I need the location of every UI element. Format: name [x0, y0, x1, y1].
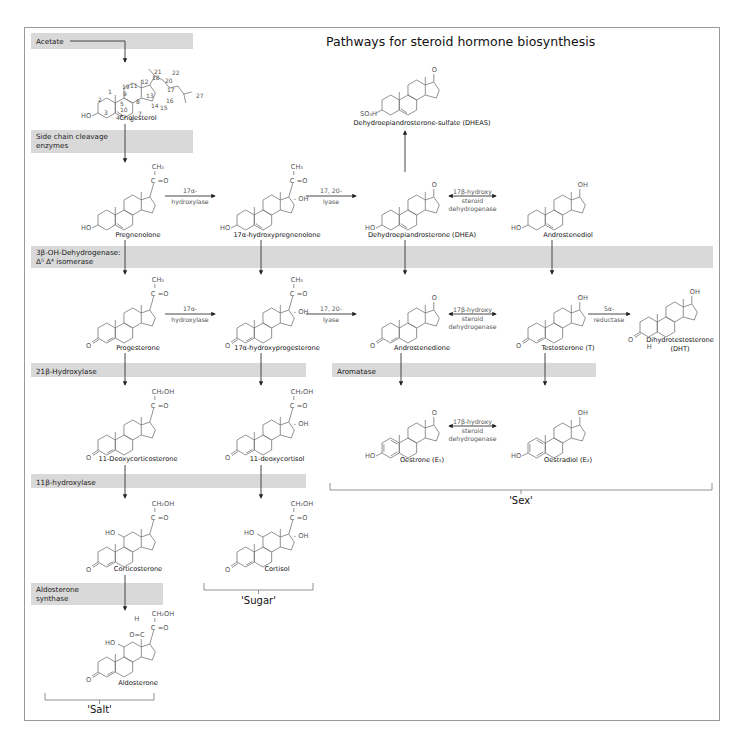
substituent-label: HO — [220, 224, 230, 232]
substituent-label: HO — [105, 529, 115, 537]
diagram-title: Pathways for steroid hormone biosynthesi… — [326, 34, 595, 49]
substituent-label: =O — [158, 177, 169, 185]
band-label: Side chain cleavage — [36, 132, 109, 141]
substituent-label: O — [86, 676, 91, 684]
substituent-label: C — [151, 177, 156, 185]
carbon-number: 22 — [172, 69, 180, 76]
band-aromatase: Aromatase — [332, 363, 596, 377]
band-11b-hydroxylase: 11β-hydroxylase — [31, 474, 306, 488]
substituent-label: O — [225, 454, 230, 462]
carbon-number: 18 — [152, 74, 160, 81]
compound-name: Dihydrotestosterone — [646, 336, 713, 344]
band-label: Acetate — [36, 37, 64, 46]
substituent-label: H — [134, 615, 139, 623]
compound-name: Androstenediol — [543, 231, 593, 239]
compound-name: Progesterone — [116, 344, 160, 352]
enzyme-label: steroid — [462, 197, 483, 204]
compound-dheas: SO₃HODehydroepiandrosterone-sulfate (DHE… — [354, 66, 491, 127]
band-label: enzymes — [36, 141, 68, 150]
substituent-label: SO₃H — [360, 110, 377, 118]
enzyme-label: 17α- — [183, 187, 197, 194]
carbon-number: 16 — [166, 97, 174, 104]
compound-name: Oestrone (E₁) — [400, 456, 444, 464]
substituent-label: - OH — [294, 532, 309, 540]
substituent-label: CH₂OH — [291, 388, 313, 396]
compound-name-line2: (DHT) — [670, 345, 689, 353]
substituent-label: CH₂OH — [152, 500, 174, 508]
carbon-number: 8 — [136, 98, 140, 105]
band-3b-oh-dehydrogenase: 3β-OH-Dehydrogenase:Δ⁵ Δ⁴ isomerase — [31, 246, 713, 268]
substituent-label: =O — [297, 402, 308, 410]
band-21b-hydroxylase: 21β-Hydroxylase — [31, 363, 306, 377]
substituent-label: OH — [578, 409, 588, 417]
substituent-label: HO — [511, 224, 521, 232]
compound-deoxycorticosterone: OC=OCH₂OH11-Deoxycorticosterone — [86, 388, 177, 463]
substituent-label: H — [647, 343, 652, 351]
carbon-number: 13 — [146, 92, 154, 99]
carbon-number: 27 — [196, 92, 204, 99]
substituent-label: OH — [690, 288, 700, 296]
enzyme-5a-reductase: 5α-reductase — [588, 305, 630, 323]
substituent-label: HO — [511, 452, 521, 460]
steroid-pathway-diagram: AcetateSide chain cleavageenzymes3β-OH-D… — [0, 0, 740, 749]
bracket-sex: 'Sex' — [330, 483, 712, 506]
substituent-label: O — [628, 336, 633, 344]
compound-name: Androstenedione — [394, 344, 450, 352]
enzyme-label: hydroxylase — [171, 316, 209, 324]
band-label: 21β-Hydroxylase — [36, 367, 97, 376]
compound-name: Dehydroepiandrosterone (DHEA) — [368, 231, 476, 239]
enzyme-label: 17β-hydroxy — [453, 306, 492, 314]
bracket-label: 'Salt' — [87, 704, 112, 715]
compound-name: Cholesterol — [119, 114, 156, 122]
enzyme-17a-hydroxylase-1: 17α-hydroxylase — [165, 187, 215, 206]
substituent-label: =O — [297, 177, 308, 185]
band-aldosterone-synthase: Aldosteronesynthase — [31, 583, 163, 605]
enzyme-label: 17β-hydroxy — [453, 418, 492, 426]
substituent-label: C — [290, 177, 295, 185]
compound-name: 17α-hydroxypregnenolone — [233, 231, 320, 239]
band-label: 3β-OH-Dehydrogenase: — [36, 248, 120, 257]
substituent-label: O — [370, 342, 375, 350]
substituent-label: O — [516, 342, 521, 350]
carbon-number: 1 — [108, 88, 112, 95]
substituent-label: O — [225, 566, 230, 574]
compound-name: 11-deoxycortisol — [250, 455, 305, 463]
carbon-number: 2 — [98, 96, 102, 103]
compound-name: Pregnenolone — [115, 231, 160, 239]
compound-androstenediol: HOOHAndrostenediol — [511, 181, 593, 239]
substituent-label: C — [151, 624, 156, 632]
carbon-number: 3 — [104, 109, 108, 116]
compound-name: 17α-hydroxyprogesterone — [234, 344, 320, 352]
compound-17a-hydroxyprogesterone: OC=OCH₃- OH17α-hydroxyprogesterone — [225, 276, 320, 352]
substituent-label: O — [86, 566, 91, 574]
enzyme-17b-hsd-2: 17β-hydroxysteroiddehydrogenase — [449, 306, 497, 331]
enzyme-label: 5α- — [604, 305, 614, 312]
enzyme-label: 17, 20- — [320, 187, 342, 194]
compound-name: Testosterone (T) — [540, 344, 594, 352]
substituent-label: =O — [158, 290, 169, 298]
substituent-label: HO — [105, 639, 115, 647]
compound-dht: OOHHDihydrotestosterone(DHT) — [628, 288, 714, 353]
carbon-number: 12 — [141, 78, 149, 85]
substituent-label: C — [290, 514, 295, 522]
band-label: Aldosterone — [36, 585, 80, 594]
compound-cholesterol: HO1234567891011121314151617181920212227C… — [81, 68, 204, 123]
compound-progesterone: OC=OCH₃Progesterone — [86, 276, 169, 352]
enzyme-label: dehydrogenase — [449, 435, 497, 443]
enzyme-17b-hsd-1: 17β-hydroxysteroiddehydrogenase — [449, 188, 497, 213]
enzyme-17b-hsd-3: 17β-hydroxysteroiddehydrogenase — [449, 418, 497, 443]
enzyme-label: reductase — [594, 316, 625, 323]
bracket-label: 'Sugar' — [241, 595, 276, 606]
enzyme-label: steroid — [462, 427, 483, 434]
carbon-number: 11 — [130, 82, 138, 89]
carbon-number: 20 — [165, 77, 173, 84]
compound-cortisol: OC=OCH₂OH- OHHOCortisol — [225, 500, 313, 574]
substituent-label: O — [432, 66, 437, 74]
substituent-label: CH₂OH — [152, 388, 174, 396]
compound-testosterone: OOHTestosterone (T) — [516, 294, 595, 352]
carbon-number: 17 — [167, 86, 175, 93]
substituent-label: HO — [244, 529, 254, 537]
enzyme-17a-hydroxylase-2: 17α-hydroxylase — [165, 305, 215, 324]
compound-deoxycortisol: OC=OCH₂OH- OH11-deoxycortisol — [225, 388, 313, 463]
enzyme-17-20-lyase-2: 17, 20-lyase — [306, 305, 356, 324]
